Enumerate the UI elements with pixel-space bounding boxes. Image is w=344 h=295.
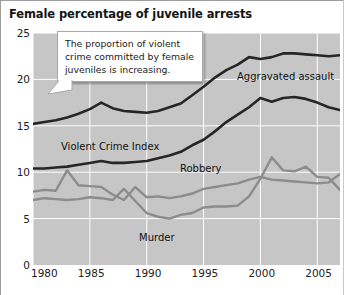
series-label: Violent Crime Index — [61, 142, 159, 152]
y-axis-tick-label: 5 — [4, 214, 30, 225]
x-axis: 198019851990199520002005 — [0, 268, 344, 288]
x-axis-tick-label: 1990 — [135, 268, 162, 279]
callout-pointer — [46, 78, 72, 96]
series-label: Aggravated assault — [237, 72, 334, 82]
x-axis-tick-label: 1985 — [78, 268, 105, 279]
callout-box: The proportion of violent crime committe… — [57, 31, 203, 82]
x-axis-tick-label: 2000 — [248, 268, 275, 279]
series-label: Murder — [139, 233, 175, 243]
series-line — [33, 170, 340, 200]
y-axis-tick-label: 10 — [4, 167, 30, 178]
chart-title: Female percentage of juvenile arrests — [9, 7, 252, 21]
y-axis: 0510152025 — [0, 0, 30, 295]
y-axis-tick-label: 15 — [4, 121, 30, 132]
callout-text: The proportion of violent crime committe… — [65, 38, 199, 76]
x-axis-tick-label: 1980 — [31, 268, 58, 279]
series-line — [33, 97, 340, 168]
figure-border-top — [0, 0, 344, 1]
y-axis-tick-label: 25 — [4, 28, 30, 39]
series-label: Robbery — [180, 164, 222, 174]
x-axis-tick-label: 1995 — [192, 268, 219, 279]
chart-figure: Female percentage of juvenile arrests 05… — [0, 0, 344, 295]
x-axis-tick-label: 2005 — [305, 268, 332, 279]
y-axis-tick-label: 20 — [4, 74, 30, 85]
